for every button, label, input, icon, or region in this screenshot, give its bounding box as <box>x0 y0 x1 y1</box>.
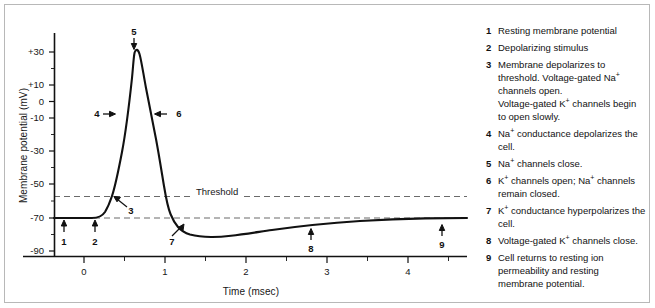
legend-item: 1 Resting membrane potential <box>486 24 646 37</box>
marker-label-9: 9 <box>435 239 449 250</box>
legend-item-text: Na+ conductance depolarizes the cell. <box>498 127 646 153</box>
marker-label-1: 1 <box>57 236 71 247</box>
legend-item: 9 Cell returns to resting ion permeabili… <box>486 251 646 290</box>
y-tick-label-30: +30 <box>10 46 44 57</box>
legend-item-number: 9 <box>486 251 498 264</box>
legend-item: 3 Membrane depolarizes to threshold. Vol… <box>486 58 646 123</box>
y-tick-label-10: +10 <box>10 79 44 90</box>
action-potential-figure: Membrane potential (mV) Time (msec) +30 … <box>0 0 655 308</box>
x-tick-label-0: 0 <box>72 266 96 277</box>
legend-item-number: 1 <box>486 24 498 37</box>
y-axis-ticks <box>49 52 54 251</box>
legend-item: 5 Na+ channels close. <box>486 157 646 170</box>
marker-label-5: 5 <box>127 26 141 37</box>
x-axis-ticks <box>84 257 408 263</box>
arrow-marker-6 <box>155 111 168 116</box>
legend-item-number: 4 <box>486 127 498 140</box>
legend-item-number: 6 <box>486 174 498 187</box>
arrow-marker-8 <box>308 229 313 241</box>
y-tick-label-minus-30: -30 <box>10 145 44 156</box>
legend-item-text: Resting membrane potential <box>498 24 646 37</box>
x-axis-minor-ticks <box>125 257 449 261</box>
legend-list: 1 Resting membrane potential 2 Depolariz… <box>486 24 646 294</box>
arrow-marker-5 <box>131 38 136 50</box>
legend-item: 8 Voltage-gated K+ channels close. <box>486 234 646 247</box>
legend-item-number: 3 <box>486 58 498 71</box>
threshold-label: Threshold <box>194 186 240 197</box>
legend-item-number: 7 <box>486 204 498 217</box>
action-potential-plot: Membrane potential (mV) Time (msec) +30 … <box>0 0 470 308</box>
y-tick-label-minus-10: -10 <box>10 112 44 123</box>
arrow-marker-2 <box>92 220 97 232</box>
legend-item-number: 5 <box>486 157 498 170</box>
y-tick-label-minus-70: -70 <box>10 212 44 223</box>
marker-label-6: 6 <box>172 108 186 119</box>
membrane-potential-curve <box>54 50 467 237</box>
marker-label-2: 2 <box>88 236 102 247</box>
y-tick-label-minus-50: -50 <box>10 178 44 189</box>
plot-canvas <box>0 0 470 308</box>
x-tick-label-3: 3 <box>315 266 339 277</box>
x-tick-label-4: 4 <box>396 266 420 277</box>
legend-item-text: K+ channels open; Na+ channels remain cl… <box>498 174 646 200</box>
legend-item-text: Voltage-gated K+ channels close. <box>498 234 646 247</box>
marker-label-8: 8 <box>304 243 318 254</box>
y-tick-label-minus-90: -90 <box>10 245 44 256</box>
legend-item-text: Depolarizing stimulus <box>498 41 646 54</box>
x-tick-label-2: 2 <box>234 266 258 277</box>
legend-item-number: 8 <box>486 234 498 247</box>
legend-item-text: K+ conductance hyperpolarizes the cell. <box>498 204 646 230</box>
legend-item-text: Na+ channels close. <box>498 157 646 170</box>
arrow-marker-1 <box>61 220 66 232</box>
legend-item-text: Cell returns to resting ion permeability… <box>498 251 646 290</box>
marker-label-3: 3 <box>124 205 138 216</box>
legend-item: 7 K+ conductance hyperpolarizes the cell… <box>486 204 646 230</box>
legend-item: 2 Depolarizing stimulus <box>486 41 646 54</box>
arrow-marker-4 <box>103 111 116 116</box>
legend-item-number: 2 <box>486 41 498 54</box>
legend-item: 4 Na+ conductance depolarizes the cell. <box>486 127 646 153</box>
y-tick-label-0: 0 <box>10 96 44 107</box>
marker-label-4: 4 <box>90 108 104 119</box>
legend-item: 6 K+ channels open; Na+ channels remain … <box>486 174 646 200</box>
marker-label-7: 7 <box>165 236 179 247</box>
arrow-marker-9 <box>439 225 444 237</box>
x-tick-label-1: 1 <box>153 266 177 277</box>
x-axis-title: Time (msec) <box>186 286 316 297</box>
annotation-arrows <box>61 38 444 240</box>
legend-item-text: Membrane depolarizes to threshold. Volta… <box>498 58 646 123</box>
